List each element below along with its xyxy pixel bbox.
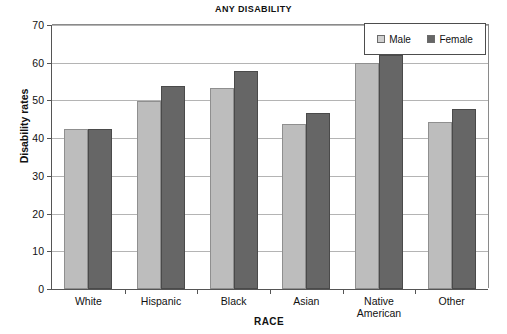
bar-hispanic-female[interactable] [161, 86, 185, 289]
x-axis-tick [125, 289, 126, 294]
y-axis-title: Disability rates [18, 56, 30, 196]
y-axis-label: 40 [32, 132, 44, 144]
bar-hispanic-male[interactable] [137, 101, 161, 289]
x-axis-tick [197, 289, 198, 294]
y-axis-label: 70 [32, 19, 44, 31]
x-axis-category-label: Other [439, 296, 465, 308]
y-axis-label: 50 [32, 94, 44, 106]
bar-group [343, 25, 416, 289]
x-axis-tick [415, 289, 416, 294]
bar-asian-male[interactable] [282, 124, 306, 289]
chart-legend[interactable]: Male Female [364, 23, 486, 55]
chart-title: ANY DISABILITY [0, 4, 507, 14]
y-axis-tick [47, 289, 52, 290]
y-axis-label: 20 [32, 208, 44, 220]
bar-asian-female[interactable] [306, 113, 330, 289]
x-axis-tick [270, 289, 271, 294]
bar-black-female[interactable] [234, 71, 258, 289]
y-axis-label: 60 [32, 57, 44, 69]
bar-white-male[interactable] [64, 129, 88, 289]
plot-area: 010203040506070 WhiteHispanicBlackAsianN… [51, 25, 488, 290]
bar-group [52, 25, 125, 289]
bar-native-american-male[interactable] [355, 63, 379, 289]
legend-entry-male[interactable]: Male [377, 34, 411, 45]
x-axis-category-label: White [75, 296, 102, 308]
bar-white-female[interactable] [88, 129, 112, 289]
legend-label-female: Female [439, 34, 472, 45]
bar-group [415, 25, 488, 289]
bars-layer [52, 25, 488, 289]
legend-swatch-male-icon [377, 35, 385, 43]
bar-group [270, 25, 343, 289]
bar-group [197, 25, 270, 289]
legend-label-male: Male [389, 34, 411, 45]
bar-group [125, 25, 198, 289]
bar-native-american-female[interactable] [379, 55, 403, 289]
bar-chart-figure: ANY DISABILITY Disability rates 01020304… [0, 0, 507, 334]
x-axis-category-label: Asian [293, 296, 319, 308]
y-axis-label: 10 [32, 245, 44, 257]
y-axis-label: 0 [38, 283, 44, 295]
plot-right-border [488, 24, 489, 288]
legend-swatch-female-icon [427, 35, 435, 43]
bar-other-male[interactable] [428, 122, 452, 289]
x-axis-category-label: Hispanic [141, 296, 181, 308]
x-axis-title: RACE [51, 316, 487, 327]
bar-other-female[interactable] [452, 109, 476, 289]
x-axis-category-label: Black [221, 296, 247, 308]
y-axis-label: 30 [32, 170, 44, 182]
legend-entry-female[interactable]: Female [427, 34, 472, 45]
x-axis-tick [343, 289, 344, 294]
bar-black-male[interactable] [210, 88, 234, 289]
